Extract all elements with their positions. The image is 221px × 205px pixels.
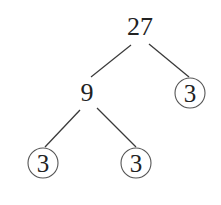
- edge-27-to-3: [149, 44, 189, 77]
- node-9-label: 9: [81, 78, 94, 107]
- edge-9-to-3-left: [45, 110, 80, 147]
- prime-node-label: 3: [37, 150, 50, 177]
- edge-27-to-9: [91, 45, 131, 77]
- factor-tree-diagram: 27 9 3 3 3: [0, 0, 221, 205]
- edge-9-to-3-right: [97, 108, 136, 147]
- prime-node-label: 3: [130, 150, 143, 177]
- root-node-label: 27: [127, 12, 153, 41]
- prime-node-label: 3: [184, 80, 197, 107]
